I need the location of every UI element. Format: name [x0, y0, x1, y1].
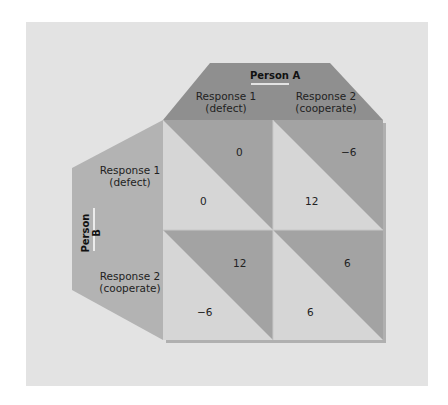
- payoff-b-r1-c1: 6: [307, 306, 314, 318]
- payoff-b-r1-c0: −6: [197, 306, 212, 318]
- label-line: (defect): [190, 102, 262, 114]
- person-b-response-2: Response 2 (cooperate): [96, 270, 164, 294]
- label-line: (defect): [98, 176, 162, 188]
- person-a-response-2: Response 2 (cooperate): [288, 90, 364, 114]
- person-a-response-1: Response 1 (defect): [190, 90, 262, 114]
- cell-r0-c1: [273, 120, 383, 230]
- label-line: Response 1: [98, 164, 162, 176]
- person-a-title: Person A: [250, 70, 300, 81]
- payoff-b-r0-c1: 12: [305, 195, 318, 207]
- payoff-matrix-graphic: [0, 0, 448, 405]
- label-line: (cooperate): [288, 102, 364, 114]
- label-line: Response 2: [288, 90, 364, 102]
- label-line: Response 2: [96, 270, 164, 282]
- label-line: Response 1: [190, 90, 262, 102]
- payoff-a-r1-c0: 12: [233, 257, 246, 269]
- cell-r1-c1: [273, 230, 383, 340]
- person-b-response-1: Response 1 (defect): [98, 164, 162, 188]
- cell-r0-c0: [163, 120, 273, 230]
- payoff-a-r0-c0: 0: [236, 146, 243, 158]
- person-b-title: Person B: [80, 208, 102, 258]
- payoff-b-r0-c0: 0: [200, 195, 207, 207]
- cell-r1-c0: [163, 230, 273, 340]
- payoff-a-r0-c1: −6: [341, 146, 356, 158]
- payoff-a-r1-c1: 6: [344, 257, 351, 269]
- label-line: (cooperate): [96, 282, 164, 294]
